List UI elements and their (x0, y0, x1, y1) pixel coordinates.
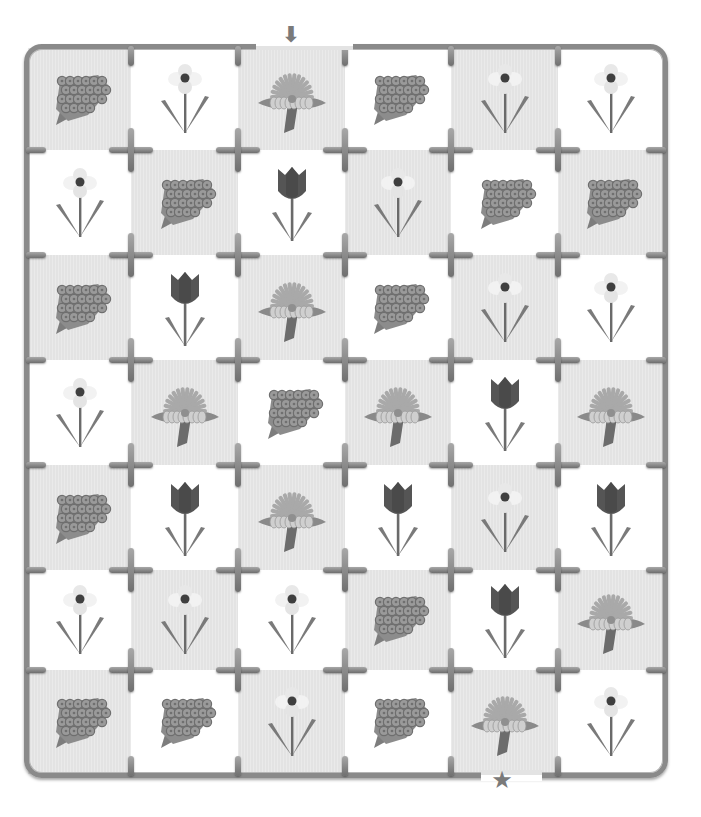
connector-cross-v (555, 128, 561, 172)
connector-cross-v (448, 443, 454, 487)
maze-cell-tulip[interactable] (345, 465, 451, 570)
maze-cell-hyacinth[interactable] (345, 670, 451, 774)
tulip-icon (583, 478, 639, 558)
maze-cell-daffodil[interactable] (238, 670, 345, 774)
maze-cell-daisy[interactable] (451, 670, 558, 774)
maze-cell-hyacinth[interactable] (451, 150, 558, 255)
maze-cell-daffodil[interactable] (28, 150, 131, 255)
daffodil-icon (50, 584, 110, 656)
tulip-icon (477, 373, 533, 453)
daisy-icon (254, 63, 330, 135)
maze-cell-hyacinth[interactable] (345, 48, 451, 150)
hyacinth-icon (153, 692, 217, 752)
daisy-icon (573, 377, 649, 449)
maze-cell-hyacinth[interactable] (558, 150, 664, 255)
maze-cell-daffodil[interactable] (131, 48, 238, 150)
maze-cell-hyacinth[interactable] (131, 670, 238, 774)
maze-cell-tulip[interactable] (451, 360, 558, 465)
tulip-icon (370, 478, 426, 558)
maze-cell-hyacinth[interactable] (28, 465, 131, 570)
maze-cell-hyacinth[interactable] (28, 48, 131, 150)
tulip-icon (477, 580, 533, 660)
maze-cell-daffodil[interactable] (451, 48, 558, 150)
maze-cell-daisy[interactable] (558, 570, 664, 670)
exit-star-icon: ★ (487, 768, 517, 792)
maze-cell-tulip[interactable] (238, 150, 345, 255)
maze-cell-hyacinth[interactable] (345, 255, 451, 360)
maze-cell-daffodil[interactable] (558, 670, 664, 774)
hyacinth-icon (366, 692, 430, 752)
daisy-icon (573, 584, 649, 656)
daffodil-icon (50, 167, 110, 239)
edge-stub-bottom (448, 756, 454, 776)
connector-cross-v (235, 548, 241, 592)
hyacinth-icon (366, 69, 430, 129)
hyacinth-icon (473, 173, 537, 233)
hyacinth-icon (153, 173, 217, 233)
edge-stub-bottom (342, 756, 348, 776)
maze-cell-tulip[interactable] (131, 465, 238, 570)
connector-cross-v (235, 128, 241, 172)
maze-cell-tulip[interactable] (558, 465, 664, 570)
hyacinth-icon (579, 173, 643, 233)
maze-cell-daffodil[interactable] (131, 570, 238, 670)
daisy-icon (467, 686, 543, 758)
edge-stub-top (128, 46, 134, 66)
connector-cross-v (555, 548, 561, 592)
maze-cell-hyacinth[interactable] (28, 255, 131, 360)
maze-cell-daffodil[interactable] (238, 570, 345, 670)
maze-cell-tulip[interactable] (131, 255, 238, 360)
daffodil-icon (50, 377, 110, 449)
maze-cell-daffodil[interactable] (28, 360, 131, 465)
maze-cell-daisy[interactable] (238, 465, 345, 570)
connector-cross-v (342, 443, 348, 487)
connector-cross-v (555, 648, 561, 692)
maze-cell-daisy[interactable] (558, 360, 664, 465)
tulip-icon (157, 268, 213, 348)
edge-stub-left (26, 567, 46, 573)
edge-stub-left (26, 462, 46, 468)
maze-cell-daffodil[interactable] (558, 255, 664, 360)
entrance-arrow-icon: ⬇ (276, 24, 306, 46)
daisy-icon (254, 482, 330, 554)
connector-cross-v (128, 338, 134, 382)
hyacinth-icon (366, 590, 430, 650)
daffodil-icon (368, 167, 428, 239)
edge-stub-top (448, 46, 454, 66)
edge-stub-left (26, 357, 46, 363)
connector-cross-v (235, 648, 241, 692)
hyacinth-icon (48, 69, 112, 129)
maze-cell-daisy[interactable] (238, 48, 345, 150)
daisy-icon (147, 377, 223, 449)
maze-cell-daffodil[interactable] (451, 255, 558, 360)
daffodil-icon (155, 63, 215, 135)
connector-cross-v (128, 648, 134, 692)
maze-cell-hyacinth[interactable] (345, 570, 451, 670)
hyacinth-icon (48, 488, 112, 548)
maze-cell-daisy[interactable] (345, 360, 451, 465)
connector-cross-v (448, 548, 454, 592)
daisy-icon (254, 272, 330, 344)
maze-cell-hyacinth[interactable] (238, 360, 345, 465)
connector-cross-v (342, 338, 348, 382)
maze-cell-daisy[interactable] (131, 360, 238, 465)
edge-stub-left (26, 252, 46, 258)
connector-cross-v (555, 233, 561, 277)
maze-cell-daffodil[interactable] (558, 48, 664, 150)
edge-stub-right (646, 462, 666, 468)
maze-cell-hyacinth[interactable] (131, 150, 238, 255)
hyacinth-icon (48, 692, 112, 752)
maze-cell-daffodil[interactable] (345, 150, 451, 255)
connector-cross-v (128, 548, 134, 592)
edge-stub-right (646, 357, 666, 363)
edge-stub-right (646, 252, 666, 258)
maze-cell-tulip[interactable] (451, 570, 558, 670)
maze-cell-daffodil[interactable] (451, 465, 558, 570)
maze-cell-daisy[interactable] (238, 255, 345, 360)
maze-cell-hyacinth[interactable] (28, 670, 131, 774)
edge-stub-top (555, 46, 561, 66)
maze-cell-daffodil[interactable] (28, 570, 131, 670)
connector-cross-v (128, 443, 134, 487)
hyacinth-icon (260, 383, 324, 443)
connector-cross-v (235, 443, 241, 487)
